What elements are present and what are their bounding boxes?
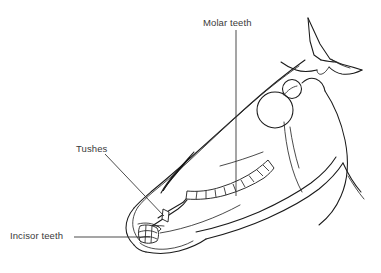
nasal-bridge-inner: [138, 66, 299, 207]
eye-socket-ridge: [302, 78, 325, 91]
jowl-outer-curve: [319, 91, 347, 225]
molar-teeth-row: [186, 160, 274, 200]
poll-crest-curl: [317, 67, 329, 74]
ear-inner-edge: [308, 18, 321, 60]
horse-dental-diagram: Molar teeth Tushes Incisor teeth: [0, 0, 381, 273]
interdental-space-group: [152, 199, 187, 226]
cheek-bone-line: [290, 127, 299, 168]
leader-lines-group: [74, 30, 236, 237]
upper-molar-line: [220, 152, 263, 166]
upper-molar-group: [220, 152, 263, 166]
jaw-outer-line: [206, 163, 343, 239]
nostril-opening: [163, 157, 190, 191]
eye-brow-circle: [283, 80, 302, 99]
neck-under-line: [348, 176, 364, 199]
incisor-block: [139, 225, 159, 243]
forehead-top-line: [281, 62, 317, 72]
brow-fold: [284, 86, 297, 95]
jaw-bar-lower: [152, 200, 187, 226]
eye-group: [257, 78, 325, 128]
throat-line: [343, 163, 361, 192]
nostril-group: [161, 152, 194, 193]
molar-teeth-label: Molar teeth: [203, 18, 252, 28]
tushes-label: Tushes: [76, 144, 107, 154]
mandible-group: [196, 157, 364, 239]
ear-group: [308, 18, 362, 70]
molar-row-band: [186, 160, 274, 199]
ear-outer-edge: [308, 18, 341, 64]
cheek-muscle-line: [284, 122, 302, 192]
ear-tip-back-curve: [341, 64, 362, 70]
incisor-teeth-label: Incisor teeth: [10, 231, 63, 241]
nasal-bridge-outer: [134, 60, 305, 208]
head-profile-group: [134, 60, 305, 208]
